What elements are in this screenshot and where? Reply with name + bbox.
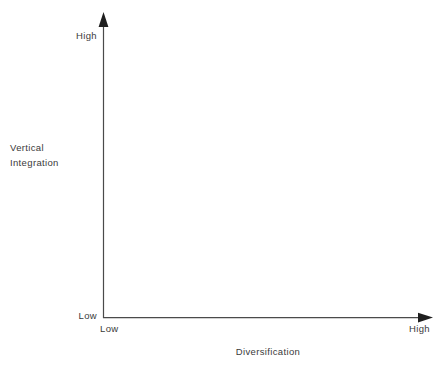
y-axis-tick-label-high: High	[0, 28, 97, 43]
chart-canvas: High Low Vertical Integration Low High D…	[0, 0, 443, 373]
y-axis-title-line-1: Vertical	[10, 140, 98, 155]
x-axis-title: Diversification	[103, 344, 433, 359]
y-axis-title-line-2: Integration	[10, 155, 98, 170]
y-axis-title: Vertical Integration	[10, 140, 98, 170]
x-axis-tick-label-high: High	[0, 321, 430, 336]
y-axis-arrow-icon	[99, 12, 109, 27]
